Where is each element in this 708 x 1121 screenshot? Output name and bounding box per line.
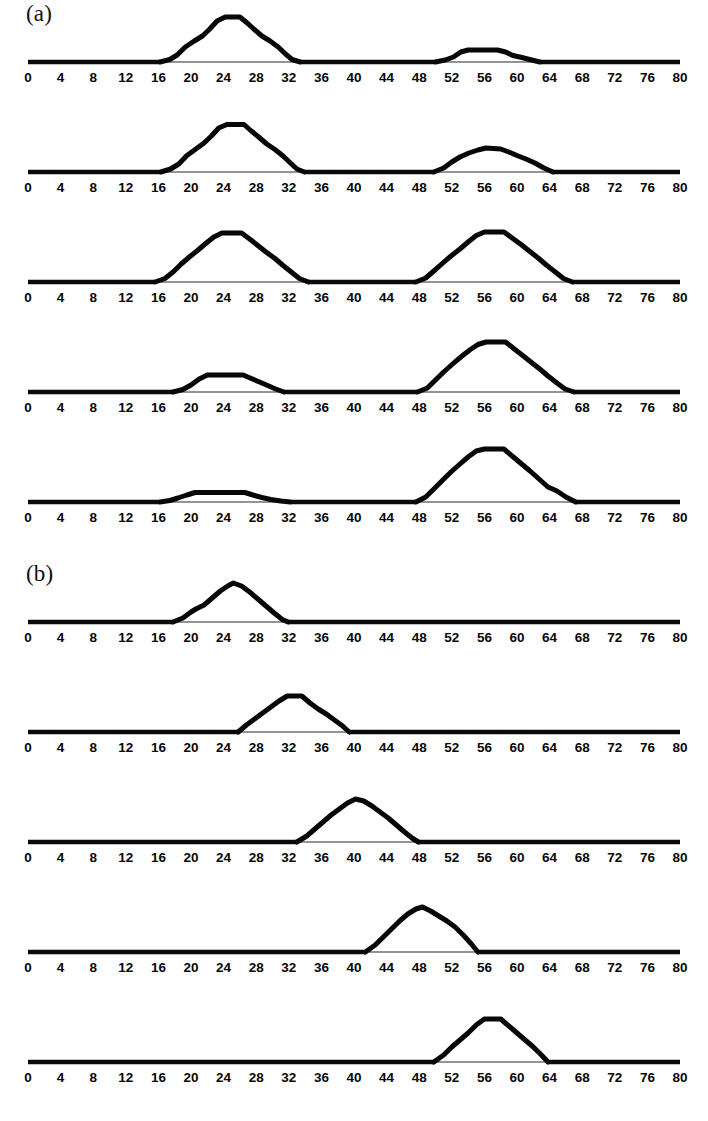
- tick-label: 20: [183, 850, 198, 865]
- tick-label: 52: [444, 630, 459, 645]
- tick-label: 0: [24, 180, 32, 195]
- x-axis-tick-labels: 048121620242832364044485256606468727680: [28, 630, 680, 652]
- tick-label: 36: [314, 400, 329, 415]
- tick-label: 32: [281, 740, 296, 755]
- pulse-pulse: [238, 696, 349, 732]
- tick-label: 68: [575, 180, 590, 195]
- pulse-curve-svg: [0, 440, 708, 516]
- tick-label: 76: [640, 630, 655, 645]
- tick-label: 72: [607, 510, 622, 525]
- tick-label: 72: [607, 850, 622, 865]
- tick-label: 72: [607, 1070, 622, 1085]
- tick-label: 68: [575, 740, 590, 755]
- pulse-evolution-figure: (a)0481216202428323640444852566064687276…: [0, 0, 708, 1121]
- tick-label: 36: [314, 290, 329, 305]
- tick-label: 44: [379, 630, 394, 645]
- tick-label: 12: [118, 400, 133, 415]
- tick-label: 16: [151, 180, 166, 195]
- tick-label: 8: [89, 400, 97, 415]
- tick-label: 28: [249, 740, 264, 755]
- panel-group-label-b: (b): [26, 562, 53, 585]
- tick-label: 76: [640, 290, 655, 305]
- tick-label: 12: [118, 960, 133, 975]
- tick-label: 8: [89, 630, 97, 645]
- pulse-pulse-left: [155, 233, 308, 282]
- tick-label: 56: [477, 180, 492, 195]
- panel-group-label-a: (a): [26, 2, 52, 25]
- x-axis-tick-labels: 048121620242832364044485256606468727680: [28, 290, 680, 312]
- tick-label: 80: [672, 180, 687, 195]
- tick-label: 4: [57, 1070, 65, 1085]
- tick-label: 16: [151, 850, 166, 865]
- tick-label: 52: [444, 70, 459, 85]
- tick-label: 60: [509, 850, 524, 865]
- tick-label: 72: [607, 180, 622, 195]
- tick-label: 76: [640, 960, 655, 975]
- tick-label: 20: [183, 960, 198, 975]
- panel-b-3: 048121620242832364044485256606468727680: [0, 890, 708, 1000]
- tick-label: 76: [640, 1070, 655, 1085]
- tick-label: 80: [672, 850, 687, 865]
- tick-label: 64: [542, 290, 557, 305]
- pulse-pulse-right: [434, 148, 553, 172]
- tick-label: 32: [281, 70, 296, 85]
- x-axis-tick-labels: 048121620242832364044485256606468727680: [28, 70, 680, 92]
- tick-label: 4: [57, 510, 65, 525]
- tick-label: 8: [89, 180, 97, 195]
- tick-label: 24: [216, 1070, 231, 1085]
- tick-label: 16: [151, 960, 166, 975]
- tick-label: 0: [24, 960, 32, 975]
- tick-label: 76: [640, 510, 655, 525]
- tick-label: 4: [57, 740, 65, 755]
- panel-a-3: 048121620242832364044485256606468727680: [0, 330, 708, 440]
- tick-label: 48: [412, 850, 427, 865]
- tick-label: 20: [183, 740, 198, 755]
- pulse-pulse: [434, 1019, 548, 1062]
- tick-label: 76: [640, 740, 655, 755]
- tick-label: 72: [607, 70, 622, 85]
- tick-label: 44: [379, 510, 394, 525]
- tick-label: 80: [672, 400, 687, 415]
- tick-label: 16: [151, 290, 166, 305]
- x-axis-tick-labels: 048121620242832364044485256606468727680: [28, 1070, 680, 1092]
- tick-label: 80: [672, 70, 687, 85]
- tick-label: 48: [412, 960, 427, 975]
- tick-label: 44: [379, 740, 394, 755]
- tick-label: 36: [314, 510, 329, 525]
- tick-label: 72: [607, 960, 622, 975]
- panel-a-1: 048121620242832364044485256606468727680: [0, 110, 708, 220]
- tick-label: 56: [477, 1070, 492, 1085]
- tick-label: 72: [607, 630, 622, 645]
- pulse-pulse: [173, 583, 288, 622]
- tick-label: 52: [444, 400, 459, 415]
- tick-label: 36: [314, 850, 329, 865]
- tick-label: 0: [24, 630, 32, 645]
- tick-label: 8: [89, 1070, 97, 1085]
- tick-label: 44: [379, 400, 394, 415]
- panel-b-2: 048121620242832364044485256606468727680: [0, 780, 708, 890]
- tick-label: 8: [89, 290, 97, 305]
- tick-label: 76: [640, 850, 655, 865]
- tick-label: 60: [509, 1070, 524, 1085]
- tick-label: 28: [249, 960, 264, 975]
- tick-label: 56: [477, 740, 492, 755]
- tick-label: 12: [118, 740, 133, 755]
- tick-label: 48: [412, 740, 427, 755]
- tick-label: 12: [118, 630, 133, 645]
- tick-label: 40: [346, 960, 361, 975]
- tick-label: 12: [118, 180, 133, 195]
- tick-label: 36: [314, 180, 329, 195]
- tick-label: 60: [509, 290, 524, 305]
- tick-label: 32: [281, 630, 296, 645]
- plot-area: [0, 330, 708, 406]
- tick-label: 68: [575, 70, 590, 85]
- tick-label: 8: [89, 850, 97, 865]
- panel-a-0: (a)0481216202428323640444852566064687276…: [0, 0, 708, 110]
- tick-label: 60: [509, 510, 524, 525]
- pulse-pulse-right: [416, 232, 572, 282]
- tick-label: 80: [672, 1070, 687, 1085]
- tick-label: 60: [509, 180, 524, 195]
- tick-label: 64: [542, 740, 557, 755]
- tick-label: 0: [24, 850, 32, 865]
- tick-label: 80: [672, 510, 687, 525]
